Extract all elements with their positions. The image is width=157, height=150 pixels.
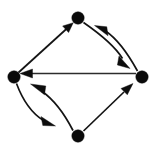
arrowhead-left-to-bottom <box>41 117 56 127</box>
graph-node-left[interactable] <box>8 71 20 83</box>
arrowhead-bottom-to-left <box>31 84 46 95</box>
arrowhead-right-to-top <box>95 26 109 36</box>
graph-canvas <box>0 0 157 150</box>
edge-bottom-to-right <box>84 84 134 132</box>
graph-node-bottom[interactable] <box>72 130 84 142</box>
edge-left-to-top <box>19 23 74 73</box>
arrowhead-top-to-right <box>117 56 130 69</box>
edge-right-to-left <box>20 69 136 78</box>
graph-node-top[interactable] <box>72 12 84 24</box>
graph-figure <box>0 0 157 150</box>
edge-line-left-to-top <box>19 28 69 73</box>
edge-left-to-bottom <box>17 84 56 127</box>
edge-right-to-top <box>95 26 138 72</box>
edge-line-bottom-to-right <box>84 92 125 131</box>
graph-node-right[interactable] <box>136 71 148 83</box>
